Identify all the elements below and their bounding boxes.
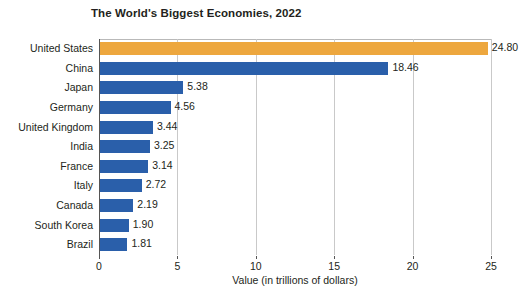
y-axis-category-labels: United StatesChinaJapanGermanyUnited Kin… (0, 39, 93, 255)
x-tick-label-25: 25 (485, 260, 497, 272)
bar-china[interactable] (99, 62, 388, 75)
bar-united-states[interactable] (99, 42, 488, 55)
x-tick-label-5: 5 (174, 260, 180, 272)
x-tick-mark-5 (177, 256, 178, 259)
category-label-france: France (1, 160, 93, 173)
bar-canada[interactable] (99, 199, 133, 212)
bar-value-label: 3.25 (154, 139, 174, 152)
bar-row: 4.56 (99, 98, 491, 118)
x-tick-label-15: 15 (328, 260, 340, 272)
bar-row: 5.38 (99, 78, 491, 98)
category-label-china: China (1, 62, 93, 75)
chart-title: The World's Biggest Economies, 2022 (91, 7, 302, 19)
bar-value-label: 1.90 (133, 218, 153, 231)
x-tick-mark-0 (99, 256, 100, 259)
bar-value-label: 1.81 (131, 237, 151, 250)
x-tick-label-0: 0 (96, 260, 102, 272)
bar-brazil[interactable] (99, 238, 127, 251)
y-axis-line (99, 39, 100, 256)
category-label-south-korea: South Korea (1, 219, 93, 232)
x-tick-mark-15 (334, 256, 335, 259)
plot-area: 24.8018.465.384.563.443.253.142.722.191.… (99, 39, 491, 255)
category-label-japan: Japan (1, 81, 93, 94)
gridline-25 (491, 39, 492, 255)
bar-value-label: 24.80 (492, 41, 518, 54)
x-axis-title: Value (in trillions of dollars) (99, 274, 491, 286)
bar-row: 1.81 (99, 235, 491, 255)
bar-france[interactable] (99, 160, 148, 173)
bar-japan[interactable] (99, 81, 183, 94)
bar-value-label: 2.19 (137, 198, 157, 211)
x-tick-mark-20 (413, 256, 414, 259)
bar-value-label: 2.72 (146, 178, 166, 191)
category-label-united-kingdom: United Kingdom (1, 121, 93, 134)
bar-united-kingdom[interactable] (99, 121, 153, 134)
x-tick-label-10: 10 (250, 260, 262, 272)
bar-india[interactable] (99, 140, 150, 153)
x-tick-mark-25 (491, 256, 492, 259)
bar-south-korea[interactable] (99, 219, 129, 232)
bar-value-label: 18.46 (392, 61, 418, 74)
category-label-united-states: United States (1, 42, 93, 55)
x-axis: 0510152025 (99, 256, 491, 276)
category-label-brazil: Brazil (1, 238, 93, 251)
bar-germany[interactable] (99, 101, 171, 114)
bar-row: 1.90 (99, 216, 491, 236)
category-label-canada: Canada (1, 199, 93, 212)
bar-row: 2.19 (99, 196, 491, 216)
bar-italy[interactable] (99, 179, 142, 192)
bar-row: 18.46 (99, 59, 491, 79)
bar-row: 24.80 (99, 39, 491, 59)
bar-row: 3.44 (99, 118, 491, 138)
bar-value-label: 4.56 (175, 100, 195, 113)
bar-value-label: 5.38 (187, 80, 207, 93)
bar-row: 2.72 (99, 176, 491, 196)
category-label-india: India (1, 140, 93, 153)
bar-value-label: 3.14 (152, 159, 172, 172)
bar-chart-figure: The World's Biggest Economies, 2022 Unit… (0, 0, 531, 293)
bar-row: 3.25 (99, 137, 491, 157)
category-label-italy: Italy (1, 179, 93, 192)
category-label-germany: Germany (1, 101, 93, 114)
x-tick-label-20: 20 (407, 260, 419, 272)
bar-value-label: 3.44 (157, 120, 177, 133)
bar-row: 3.14 (99, 157, 491, 177)
x-tick-mark-10 (256, 256, 257, 259)
